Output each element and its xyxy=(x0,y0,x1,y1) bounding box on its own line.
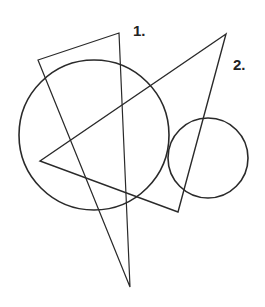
small-circle xyxy=(168,118,248,198)
geometry-diagram xyxy=(0,0,265,307)
triangle-2 xyxy=(40,34,226,212)
label-triangle-2: 2. xyxy=(233,56,246,73)
label-triangle-1: 1. xyxy=(133,22,146,39)
large-circle xyxy=(19,60,169,210)
triangle-1 xyxy=(38,33,130,287)
